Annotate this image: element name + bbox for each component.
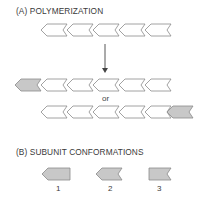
initial-filament — [41, 24, 171, 36]
new-subunit — [167, 106, 193, 118]
subunit — [119, 79, 145, 91]
subunit — [93, 79, 119, 91]
conformation-2-label: 2 — [108, 184, 112, 193]
subunit — [119, 24, 145, 36]
diagram-canvas — [0, 0, 198, 201]
filament-minus-end-added — [15, 79, 171, 91]
subunit — [93, 24, 119, 36]
down-arrow-icon — [102, 44, 108, 73]
subunit — [67, 24, 93, 36]
subunit — [119, 106, 145, 118]
subunit — [41, 24, 67, 36]
subunit — [41, 79, 67, 91]
conformation-2-shape — [96, 168, 122, 180]
subunit — [145, 79, 171, 91]
or-label: or — [102, 94, 109, 103]
conformation-1-shape — [42, 168, 70, 180]
subunit — [67, 79, 93, 91]
subunit — [145, 24, 171, 36]
conformation-3-label: 3 — [157, 184, 161, 193]
new-subunit — [15, 79, 41, 91]
subunit — [67, 106, 93, 118]
conformation-shapes — [42, 168, 171, 180]
conformation-1-label: 1 — [56, 184, 60, 193]
subunit — [93, 106, 119, 118]
subunit — [41, 106, 67, 118]
section-b-title: (B) SUBUNIT CONFORMATIONS — [16, 147, 144, 157]
conformation-3-shape — [149, 168, 171, 180]
filament-plus-end-added — [41, 106, 193, 118]
